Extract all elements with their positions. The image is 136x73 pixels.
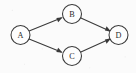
- edge-a-to-c-line: [29, 39, 61, 52]
- edge-a-to-b-arrowhead: [56, 17, 62, 22]
- edge-a-to-c-arrowhead: [56, 48, 62, 53]
- node-b[interactable]: B: [63, 5, 82, 24]
- edge-a-to-b: [29, 17, 63, 31]
- node-a[interactable]: A: [11, 26, 30, 45]
- node-c[interactable]: C: [63, 47, 82, 66]
- directed-graph: A B C D: [0, 0, 136, 73]
- node-c-label: C: [69, 52, 75, 61]
- edge-a-to-c: [29, 39, 63, 53]
- node-b-label: B: [69, 10, 75, 19]
- edge-c-to-d-line: [81, 39, 110, 52]
- edge-a-to-b-line: [29, 18, 61, 31]
- node-d-label: D: [116, 31, 122, 40]
- node-group: A B C D: [11, 5, 128, 66]
- edge-c-to-d: [81, 38, 111, 52]
- edge-b-to-d: [81, 18, 111, 32]
- diagram-canvas: A B C D: [0, 0, 136, 73]
- node-d[interactable]: D: [109, 26, 128, 45]
- node-a-label: A: [18, 31, 24, 40]
- edge-b-to-d-line: [81, 18, 110, 31]
